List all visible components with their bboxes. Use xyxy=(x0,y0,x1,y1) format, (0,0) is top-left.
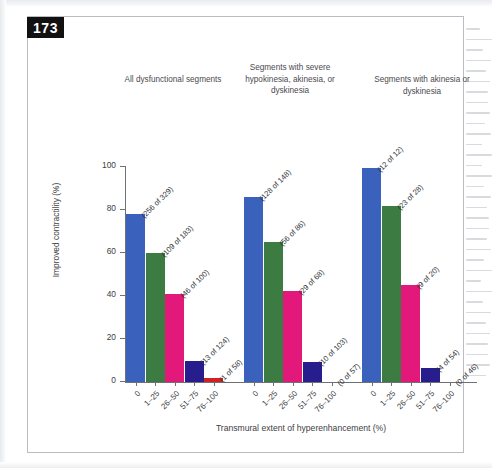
text-line xyxy=(466,60,491,62)
bar-value-annotation: (12 of 12) xyxy=(376,145,405,174)
text-line xyxy=(466,154,492,156)
text-line xyxy=(466,165,482,167)
y-tick-label: 40 xyxy=(90,289,116,299)
x-tick-mark xyxy=(372,382,373,386)
x-tick-mark xyxy=(293,382,294,386)
text-line xyxy=(466,102,488,104)
bar-value-annotation: (56 of 86) xyxy=(277,219,306,248)
x-tick-mark xyxy=(430,382,431,386)
x-tick-mark xyxy=(175,382,176,386)
x-tick-mark xyxy=(332,382,333,386)
page-bleed-left-edge xyxy=(0,0,6,468)
bar-value-annotation: (9 of 20) xyxy=(415,265,441,291)
text-line xyxy=(466,70,486,72)
x-tick-mark xyxy=(312,382,313,386)
panel-title-severe-hypokinesia: Segments with severe hypokinesia, akines… xyxy=(226,62,354,97)
y-tick-label: 60 xyxy=(90,246,116,256)
x-axis-title: Transmural extent of hyperenhancement (%… xyxy=(126,423,476,433)
bar xyxy=(165,294,184,382)
y-axis-title: Improved contractility (%) xyxy=(51,150,61,310)
bar-value-annotation: (4 of 54) xyxy=(434,348,460,374)
bar xyxy=(283,291,302,382)
text-line xyxy=(466,123,485,125)
bar xyxy=(146,253,165,382)
bar-value-annotation: (23 of 28) xyxy=(395,182,424,211)
bar-value-annotation: (1 of 58) xyxy=(218,357,244,383)
bar xyxy=(382,206,401,382)
y-tick-mark xyxy=(120,252,125,253)
text-line xyxy=(466,49,483,51)
y-tick-mark xyxy=(120,295,125,296)
bar-value-annotation: (29 of 68) xyxy=(297,267,326,296)
text-line xyxy=(466,144,482,146)
page-bleed-top-edge xyxy=(0,0,492,7)
x-tick-mark xyxy=(273,382,274,386)
y-tick-label: 0 xyxy=(90,375,116,385)
page-bleed-bottom-edge xyxy=(0,462,492,468)
text-line xyxy=(466,39,492,41)
bar-value-annotation: (13 of 124) xyxy=(198,334,230,366)
y-tick-label: 20 xyxy=(90,332,116,342)
bar-value-annotation: (46 of 100) xyxy=(179,268,211,300)
y-tick-mark xyxy=(120,381,125,382)
y-tick-label: 100 xyxy=(90,160,116,170)
y-tick-mark xyxy=(120,166,125,167)
x-tick-mark xyxy=(155,382,156,386)
x-tick-mark xyxy=(450,382,451,386)
text-line xyxy=(466,28,480,30)
text-line xyxy=(466,133,491,135)
bar-value-annotation: (0 of 57) xyxy=(336,362,362,388)
x-tick-mark xyxy=(254,382,255,386)
x-tick-mark xyxy=(411,382,412,386)
x-tick-mark xyxy=(136,382,137,386)
x-tick-mark xyxy=(391,382,392,386)
text-line xyxy=(466,112,490,114)
x-tick-mark xyxy=(214,382,215,386)
bar xyxy=(244,197,263,382)
x-axis-line xyxy=(125,382,477,383)
bar xyxy=(362,168,381,382)
bar xyxy=(401,285,420,382)
y-tick-label: 80 xyxy=(90,203,116,213)
plot-area: (256 of 329)(109 of 183)(46 of 100)(13 o… xyxy=(126,167,476,382)
bar xyxy=(126,214,145,382)
panel-title-akinesia-dyskinesia: Segments with akinesia or dyskinesia xyxy=(363,74,481,97)
x-tick-mark xyxy=(194,382,195,386)
figure-number-badge: 173 xyxy=(27,17,64,38)
panel-title-all-dysfunctional: All dysfunctional segments xyxy=(118,74,228,86)
y-tick-mark xyxy=(120,209,125,210)
bar-value-annotation: (256 of 329) xyxy=(140,185,175,220)
y-tick-mark xyxy=(120,338,125,339)
bar-value-annotation: (128 of 148) xyxy=(258,168,293,203)
bar xyxy=(264,242,283,382)
bar-value-annotation: (109 of 183) xyxy=(159,224,194,259)
bar-value-annotation: (10 of 103) xyxy=(316,335,348,367)
figure-frame: All dysfunctional segments Segments with… xyxy=(27,16,464,453)
